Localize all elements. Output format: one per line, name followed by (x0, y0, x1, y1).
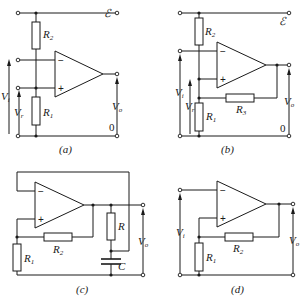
circuit-panel-b: − + ℰ R2 R1 R3 Vi Vr Vo 0 (b) (175, 11, 295, 156)
r3-label: R3 (235, 103, 247, 117)
arrowhead (7, 59, 11, 66)
vo-label: Vo (112, 100, 123, 114)
vo-label: Vo (289, 234, 300, 248)
arrowhead (291, 207, 295, 214)
resistor-r1 (195, 243, 203, 271)
circuit-panel-a: − + ℰ R2 R1 Vi Vr Vo 0 (a) (1, 7, 123, 156)
minus-sign: − (38, 186, 44, 197)
resistor-r2 (195, 18, 203, 45)
terminal (141, 273, 145, 277)
terminal (16, 86, 20, 90)
junction-dot (109, 249, 112, 252)
r1-label: R1 (205, 251, 216, 265)
terminal (115, 11, 119, 15)
vi-label: Vi (175, 86, 184, 100)
junction-dot (197, 134, 200, 137)
r1-label: R1 (42, 106, 53, 120)
minus-sign: − (220, 46, 226, 57)
caption-b: (b) (221, 143, 234, 156)
resistor-r3 (226, 94, 254, 102)
arrowhead (115, 77, 119, 84)
terminal (291, 273, 295, 277)
terminal (141, 203, 145, 207)
resistor-r1 (32, 97, 40, 125)
junction-dot (197, 273, 200, 276)
terminal (291, 202, 295, 206)
vo-label: Vo (284, 95, 295, 109)
arrowhead (17, 90, 21, 97)
terminal (287, 11, 291, 15)
resistor-r2 (225, 233, 253, 241)
caption-d: (d) (231, 283, 244, 296)
terminal (178, 188, 182, 192)
arrowhead (178, 54, 182, 61)
arrowhead (178, 193, 182, 200)
zero-label: 0 (109, 121, 115, 133)
plus-sign: + (220, 74, 226, 85)
terminal (16, 11, 20, 15)
terminal (115, 134, 119, 138)
arrowhead (287, 68, 291, 75)
r2-label: R2 (204, 25, 216, 39)
terminal (287, 63, 291, 67)
plus-sign: + (38, 214, 44, 225)
plus-sign: + (220, 213, 226, 224)
resistor-r1 (195, 103, 203, 131)
circuit-panel-c: − + R C R2 R1 Vo (c) (13, 172, 149, 296)
vr-label: Vr (185, 100, 195, 114)
c-label: C (118, 260, 126, 272)
resistor-r (107, 213, 115, 240)
terminal (115, 72, 119, 76)
terminal (287, 134, 291, 138)
terminal (178, 273, 182, 277)
vo-label: Vo (138, 235, 149, 249)
vi-label: Vi (176, 226, 185, 240)
r-label: R (117, 220, 125, 232)
r1-label: R1 (205, 110, 216, 124)
caption-a: (a) (59, 143, 72, 156)
minus-sign: − (220, 185, 226, 196)
resistor-r1 (13, 244, 21, 271)
supply-label: ℰ (104, 7, 112, 19)
resistor-r2 (32, 22, 40, 49)
resistor-r2 (44, 233, 72, 241)
minus-sign: − (58, 55, 64, 66)
r2-label: R2 (42, 28, 54, 42)
r2-label: R2 (232, 242, 244, 256)
circuit-panel-d: − + R2 R1 Vi Vo (d) (176, 181, 300, 296)
plus-sign: + (58, 83, 64, 94)
vr-label: Vr (14, 106, 24, 120)
caption-c: (c) (76, 283, 89, 296)
supply-label: ℰ (279, 15, 287, 27)
junction-dot (109, 273, 112, 276)
r2-label: R2 (52, 243, 64, 257)
terminal (178, 49, 182, 53)
junction-dot (34, 134, 37, 137)
terminal (178, 11, 182, 15)
zero-label: 0 (280, 122, 286, 134)
vi-label: Vi (1, 90, 10, 104)
terminal (178, 134, 182, 138)
arrowhead (141, 208, 145, 215)
arrowhead (188, 79, 192, 86)
r1-label: R1 (23, 252, 34, 266)
terminal (16, 58, 20, 62)
terminal (16, 134, 20, 138)
